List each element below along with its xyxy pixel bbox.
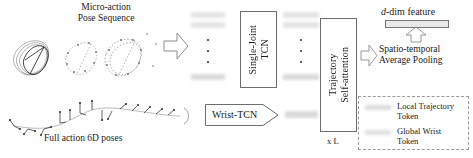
wrist-tcn-label: Wrist-TCN [212, 108, 257, 122]
global-wrist-token-rect [285, 111, 318, 118]
arrow-to-pooling-icon [360, 43, 378, 68]
token-rect [191, 12, 225, 18]
token-rect [283, 74, 319, 80]
d-dim-rest: -dim feature [386, 6, 435, 17]
token-column-local-trajectory [283, 12, 319, 85]
single-joint-tcn-module[interactable]: Single-Joint TCN [240, 11, 277, 88]
vertical-ellipsis [299, 39, 303, 63]
trajectory-self-attention-label: Trajectory Self-attention [327, 47, 350, 103]
token-rect [283, 22, 319, 28]
wrist-tcn-module[interactable]: Wrist-TCN [205, 104, 279, 126]
token-legend: Local Trajectory Token Global Wrist Toke… [358, 96, 469, 150]
pose-sequence-illustration [6, 26, 168, 88]
legend-item-local-trajectory: Local Trajectory Token [363, 102, 464, 121]
architecture-diagram: Micro-action Pose Sequence [0, 0, 473, 158]
legend-item-global-wrist: Global Wrist Token [363, 127, 464, 146]
token-rect [191, 74, 225, 80]
token-column-input [191, 12, 225, 85]
full-action-6d-poses-label: Full action 6D poses [44, 133, 122, 143]
local-trajectory-token-swatch [365, 105, 391, 110]
single-joint-tcn-label: Single-Joint TCN [247, 25, 270, 75]
global-wrist-token-swatch [365, 130, 391, 135]
trajectory-self-attention-module[interactable]: Trajectory Self-attention [320, 18, 357, 132]
legend-label-global-wrist: Global Wrist Token [397, 127, 441, 146]
legend-label-local-trajectory: Local Trajectory Token [397, 102, 454, 121]
micro-action-pose-sequence-title: Micro-action Pose Sequence [47, 2, 165, 24]
repeat-count-label: x L [327, 136, 339, 146]
d-dim-feature-bar [385, 20, 449, 28]
arrow-poses-to-tokens-icon [163, 31, 189, 61]
d-dim-feature-label: d-dim feature [381, 6, 435, 17]
arrow-pooling-to-feature-icon [404, 26, 428, 43]
vertical-ellipsis [206, 39, 210, 63]
token-rect [283, 12, 319, 18]
spatio-temporal-average-pooling-label: Spatio-temporal Average Pooling [379, 44, 473, 66]
token-rect [191, 22, 225, 28]
